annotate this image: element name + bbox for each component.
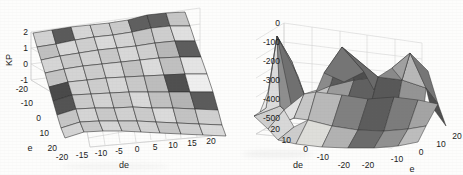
- left-xtick-0: -20: [56, 152, 69, 162]
- left-zaxis-label: KP: [4, 54, 14, 66]
- left-plot-svg: 2 1 0 -1 KP -20 -10 0 10 20 e -20 -15 -1…: [0, 0, 231, 175]
- right-surface-mesh: [254, 36, 446, 148]
- right-xtick-4: 20: [452, 131, 462, 141]
- left-ztick-2: 0: [23, 59, 28, 69]
- left-xtick-8: 20: [206, 136, 216, 146]
- left-ztick-1: 1: [23, 43, 28, 53]
- right-ztick-1: -100: [263, 37, 280, 47]
- right-xaxis-label: e: [409, 164, 414, 174]
- right-ztick-4: -400: [263, 94, 280, 104]
- left-xtick-7: 15: [187, 138, 197, 148]
- left-ztick-0: 2: [23, 27, 28, 37]
- left-xtick-1: -15: [76, 150, 89, 160]
- right-ytick-3: -10: [317, 152, 330, 162]
- left-xtick-4: 0: [135, 144, 140, 154]
- left-xtick-2: -10: [95, 148, 108, 158]
- right-plot-svg: 0 -100 -200 -300 -400 -500 TI 20 10 0 -1…: [232, 0, 463, 175]
- right-xtick-3: 10: [436, 139, 446, 149]
- right-ztick-3: -300: [263, 75, 280, 85]
- right-ztick-5: -500: [263, 113, 280, 123]
- left-yaxis-label: e: [27, 143, 32, 153]
- right-ytick-1: 10: [282, 135, 292, 145]
- left-z-axis: 2 1 0 -1 KP: [4, 27, 28, 85]
- right-ytick-2: 0: [303, 144, 308, 154]
- left-ytick-0: -20: [16, 84, 29, 94]
- left-xtick-5: 5: [153, 142, 158, 152]
- right-zaxis-label: TI: [232, 68, 233, 76]
- right-xtick-1: -10: [391, 154, 404, 164]
- left-surface-mesh: [33, 12, 226, 138]
- right-ztick-0: 0: [275, 18, 280, 28]
- right-ztick-2: -200: [263, 56, 280, 66]
- figure-container: 2 1 0 -1 KP -20 -10 0 10 20 e -20 -15 -1…: [0, 0, 463, 175]
- right-ytick-4: -20: [338, 160, 351, 170]
- left-ytick-2: 0: [36, 113, 41, 123]
- left-xtick-6: 10: [168, 140, 178, 150]
- right-surface-plot: 0 -100 -200 -300 -400 -500 TI 20 10 0 -1…: [232, 0, 463, 175]
- right-yaxis-label: de: [293, 160, 303, 170]
- left-surface-plot: 2 1 0 -1 KP -20 -10 0 10 20 e -20 -15 -1…: [0, 0, 231, 175]
- left-xaxis-label: de: [119, 160, 129, 170]
- right-xtick-0: -20: [362, 160, 375, 170]
- right-xtick-2: 0: [419, 147, 424, 157]
- left-ytick-3: 10: [40, 128, 50, 138]
- right-ytick-0: 20: [271, 124, 281, 134]
- left-xtick-3: -5: [115, 146, 123, 156]
- left-ytick-1: -10: [21, 98, 34, 108]
